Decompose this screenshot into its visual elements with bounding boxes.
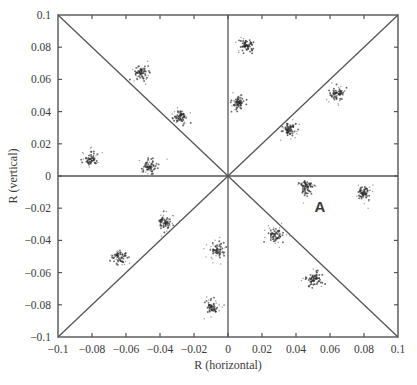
scatter-point bbox=[190, 112, 192, 114]
scatter-point bbox=[329, 94, 331, 96]
scatter-point bbox=[212, 249, 214, 251]
scatter-point bbox=[172, 117, 174, 119]
scatter-point bbox=[231, 105, 233, 107]
scatter-point bbox=[172, 113, 174, 115]
scatter-point bbox=[242, 40, 244, 42]
scatter-point bbox=[304, 188, 306, 190]
scatter-point bbox=[236, 107, 238, 109]
scatter-point bbox=[224, 247, 226, 249]
scatter-point bbox=[212, 242, 214, 244]
scatter-point bbox=[279, 227, 281, 229]
scatter-point bbox=[311, 287, 313, 289]
scatter-point bbox=[277, 232, 279, 234]
scatter-point bbox=[361, 196, 363, 198]
scatter-point bbox=[144, 164, 146, 166]
scatter-point bbox=[116, 259, 118, 261]
scatter-point bbox=[249, 39, 251, 41]
scatter-point bbox=[163, 231, 165, 233]
y-axis-title: R (vertical) bbox=[6, 149, 20, 204]
scatter-point bbox=[214, 240, 216, 242]
scatter-point bbox=[90, 156, 92, 158]
scatter-point bbox=[147, 157, 149, 159]
scatter-point bbox=[366, 188, 368, 190]
scatter-point bbox=[320, 282, 322, 284]
scatter-point bbox=[342, 94, 344, 96]
scatter-point bbox=[314, 184, 316, 186]
scatter-point bbox=[268, 232, 270, 234]
scatter-point bbox=[249, 46, 251, 48]
scatter-point bbox=[238, 39, 240, 41]
scatter-point bbox=[205, 256, 207, 258]
scatter-point bbox=[183, 115, 185, 117]
scatter-point bbox=[273, 226, 275, 228]
x-tick-label: 0 bbox=[225, 343, 231, 355]
scatter-point bbox=[216, 246, 218, 248]
scatter-point bbox=[230, 101, 232, 103]
scatter-point bbox=[96, 160, 98, 162]
scatter-point bbox=[246, 45, 248, 47]
scatter-point bbox=[215, 303, 217, 305]
scatter-point bbox=[204, 301, 206, 303]
scatter-point bbox=[344, 90, 346, 92]
scatter-point bbox=[122, 261, 124, 263]
scatter-point bbox=[179, 220, 181, 222]
scatter-point bbox=[111, 254, 113, 256]
scatter-point bbox=[252, 48, 254, 50]
scatter-point bbox=[337, 103, 339, 105]
x-tick-label: −0.1 bbox=[48, 343, 69, 355]
scatter-point bbox=[148, 75, 150, 77]
scatter-point bbox=[274, 233, 276, 235]
scatter-point bbox=[139, 160, 141, 162]
scatter-point bbox=[212, 262, 214, 264]
scatter-point bbox=[216, 244, 218, 246]
scatter-point bbox=[142, 171, 144, 173]
scatter-point bbox=[251, 52, 253, 54]
scatter-point bbox=[157, 167, 159, 169]
scatter-point bbox=[116, 263, 118, 265]
x-tick-label: −0.02 bbox=[181, 343, 208, 355]
scatter-point bbox=[316, 283, 318, 285]
scatter-point bbox=[113, 257, 115, 259]
scatter-point bbox=[316, 272, 318, 274]
scatter-point bbox=[176, 114, 178, 116]
scatter-point bbox=[145, 70, 147, 72]
scatter-point bbox=[297, 129, 299, 131]
scatter-point bbox=[334, 92, 336, 94]
scatter-point bbox=[132, 69, 134, 71]
scatter-point bbox=[286, 124, 288, 126]
scatter-point bbox=[288, 130, 290, 132]
scatter-point bbox=[335, 96, 337, 98]
scatter-point bbox=[152, 161, 154, 163]
scatter-point bbox=[295, 123, 297, 125]
scatter-point bbox=[230, 111, 232, 113]
scatter-point bbox=[178, 112, 180, 114]
scatter-point bbox=[93, 151, 95, 153]
scatter-point bbox=[275, 237, 277, 239]
scatter-point bbox=[367, 191, 369, 193]
scatter-point bbox=[144, 68, 146, 70]
scatter-point bbox=[335, 90, 337, 92]
scatter-point bbox=[282, 130, 284, 132]
scatter-point bbox=[321, 274, 323, 276]
scatter-point bbox=[101, 152, 103, 154]
scatter-point bbox=[218, 240, 220, 242]
scatter-point bbox=[302, 182, 304, 184]
annotation-label: A bbox=[314, 198, 325, 215]
scatter-point bbox=[249, 51, 251, 53]
scatter-point bbox=[329, 92, 331, 94]
scatter-point bbox=[166, 223, 168, 225]
scatter-point bbox=[173, 120, 175, 122]
scatter-point bbox=[144, 65, 146, 67]
scatter-point bbox=[239, 100, 241, 102]
scatter-point bbox=[218, 253, 220, 255]
scatter-point bbox=[146, 165, 148, 167]
scatter-point bbox=[216, 252, 218, 254]
scatter-point bbox=[93, 153, 95, 155]
scatter-point bbox=[153, 169, 155, 171]
scatter-point bbox=[220, 243, 222, 245]
scatter-point bbox=[269, 228, 271, 230]
scatter-point bbox=[172, 223, 174, 225]
scatter-point bbox=[141, 76, 143, 78]
scatter-point bbox=[146, 77, 148, 79]
scatter-point bbox=[223, 255, 225, 257]
